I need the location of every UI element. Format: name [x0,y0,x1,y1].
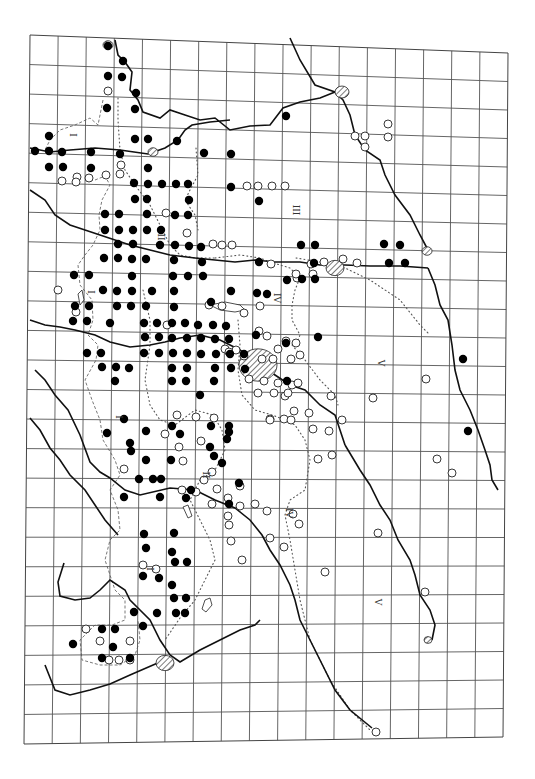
open-dot-marker [325,427,333,435]
open-dot-marker [218,302,226,310]
filled-dot-marker [69,317,77,325]
filled-dot-marker [155,349,163,357]
grid-line-horizontal [27,390,506,396]
filled-dot-marker [126,439,134,447]
border-south [45,563,260,695]
filled-dot-marker [114,240,122,248]
open-dot-marker [372,728,380,736]
filled-dot-marker [118,73,126,81]
open-dot-marker [126,637,134,645]
filled-dot-marker [70,271,78,279]
filled-dot-marker [144,164,152,172]
open-dot-marker [287,355,295,363]
filled-dot-marker [181,319,189,327]
open-dot-marker [183,229,191,237]
filled-dot-marker [170,529,178,537]
open-dot-marker [369,394,377,402]
filled-dot-marker [464,427,472,435]
filled-dot-marker [113,302,121,310]
filled-dot-marker [183,364,191,372]
filled-dot-marker [59,163,67,171]
filled-dot-marker [172,180,180,188]
zone-label: I [86,290,96,294]
open-dot-marker [116,170,124,178]
open-dot-marker [263,507,271,515]
filled-dot-marker [227,183,235,191]
filled-dot-marker [168,334,176,342]
open-dot-marker [178,486,186,494]
open-dot-marker [210,414,218,422]
filled-dot-marker [148,287,156,295]
filled-dot-marker [127,302,135,310]
zone-label: I [114,415,124,419]
open-dot-marker [162,209,170,217]
open-dot-marker [258,355,266,363]
filled-dot-marker [126,654,134,662]
filled-dot-marker [184,211,192,219]
open-dot-marker [251,500,259,508]
filled-dot-marker [109,643,117,651]
zone-label: IV [284,508,294,519]
open-dot-marker [268,182,276,190]
grid-line-horizontal [27,449,506,452]
open-dot-marker [228,241,236,249]
filled-dot-marker [158,180,166,188]
border-north [30,40,335,154]
city-se-icon [424,637,432,644]
distribution-map: IIIIIIIIVVIIIIVIV [0,0,535,779]
filled-dot-marker [130,179,138,187]
filled-dot-marker [396,241,404,249]
open-dot-marker [353,259,361,267]
filled-dot-marker [149,475,157,483]
filled-dot-marker [140,530,148,538]
filled-dot-marker [227,287,235,295]
filled-dot-marker [255,258,263,266]
filled-dot-marker [99,286,107,294]
filled-dot-marker [227,150,235,158]
filled-dot-marker [140,319,148,327]
filled-dot-marker [311,241,319,249]
open-dot-marker [384,120,392,128]
grid-line-horizontal [28,301,506,310]
filled-dot-marker [31,147,39,155]
filled-dot-marker [226,350,234,358]
open-dot-marker [240,309,248,317]
open-dot-marker [117,161,125,169]
filled-dot-marker [227,364,235,372]
filled-dot-marker [380,240,388,248]
grid-line-horizontal [26,566,505,567]
open-dot-marker [280,543,288,551]
open-dot-marker [236,502,244,510]
city-east-edge-icon [422,247,432,256]
map-frame [24,35,508,744]
filled-dot-marker [169,272,177,280]
open-dot-marker [227,537,235,545]
filled-dot-marker [144,135,152,143]
city-south-icon [156,655,174,670]
filled-dot-marker [168,422,176,430]
filled-dot-marker [143,195,151,203]
filled-dot-marker [210,377,218,385]
filled-dot-marker [143,210,151,218]
filled-dot-marker [132,89,140,97]
filled-dot-marker [194,321,202,329]
filled-dot-marker [263,290,271,298]
open-dot-marker [82,625,90,633]
filled-dot-marker [184,180,192,188]
open-dot-marker [281,182,289,190]
filled-dot-marker [142,427,150,435]
zone-label: III [291,205,301,216]
filled-dot-marker [120,493,128,501]
filled-dot-marker [112,363,120,371]
filled-dot-marker [142,544,150,552]
filled-dot-marker [157,475,165,483]
open-dot-marker [105,656,113,664]
open-dot-marker [208,500,216,508]
filled-dot-marker [153,319,161,327]
filled-dot-marker [459,355,467,363]
filled-dot-marker [85,302,93,310]
filled-dot-marker [103,429,111,437]
filled-dot-marker [83,317,91,325]
open-dot-marker [361,132,369,140]
filled-dot-marker [143,226,151,234]
